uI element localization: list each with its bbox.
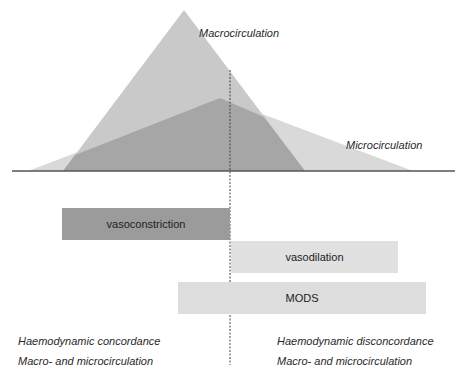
vasodilation-bar: vasodilation [231,241,398,273]
circulation-diagram [0,0,463,380]
vasoconstriction-bar: vasoconstriction [62,208,230,240]
caption-right: Haemodynamic disconcordance Macro- and m… [277,331,434,371]
macrocirculation-label: Macrocirculation [199,27,279,39]
caption-right-line2: Macro- and microcirculation [277,351,434,371]
caption-left-line1: Haemodynamic concordance [18,331,160,351]
caption-left-line2: Macro- and microcirculation [18,351,160,371]
microcirculation-label: Microcirculation [346,139,422,151]
mods-bar: MODS [178,282,426,314]
vasodilation-label: vasodilation [285,251,343,263]
mods-label: MODS [286,292,319,304]
vasoconstriction-label: vasoconstriction [107,218,186,230]
caption-right-line1: Haemodynamic disconcordance [277,331,434,351]
caption-left: Haemodynamic concordance Macro- and micr… [18,331,160,371]
